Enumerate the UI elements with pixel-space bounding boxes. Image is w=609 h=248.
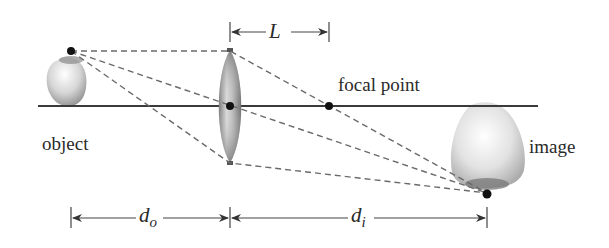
- image-figure: [451, 102, 525, 190]
- image-point: [483, 190, 492, 199]
- light-rays: [71, 51, 487, 193]
- ray-through-center: [71, 51, 487, 193]
- image-distance-symbol: d: [351, 203, 362, 227]
- focal-point-label: focal point: [338, 74, 420, 96]
- object-label: object: [42, 133, 88, 155]
- lens-diagram: [0, 0, 609, 248]
- image-label: image: [529, 136, 575, 158]
- object-figure: [47, 56, 87, 106]
- image-distance-label: di: [348, 203, 369, 231]
- lens-center-point: [226, 102, 234, 110]
- distance-dimensions: [71, 207, 487, 228]
- focal-length-label: L: [266, 19, 284, 44]
- object-distance-symbol: d: [139, 203, 150, 227]
- focal-length-symbol: L: [269, 19, 281, 43]
- object-distance-subscript: o: [150, 214, 158, 230]
- focal-point-dot: [325, 102, 333, 110]
- object-distance-label: do: [136, 203, 160, 231]
- image-distance-subscript: i: [362, 214, 366, 230]
- object-point: [67, 47, 75, 55]
